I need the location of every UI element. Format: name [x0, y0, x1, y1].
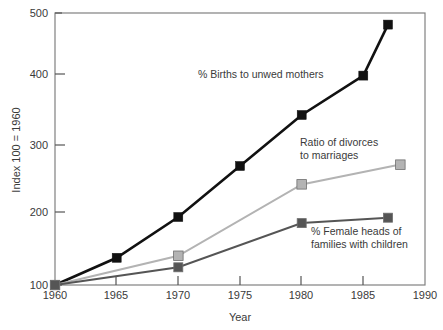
y-tick-label-300: 300	[30, 139, 48, 151]
data-point-marker	[174, 213, 183, 222]
chart-canvas: 500 400 300 200 100 Index 100 = 1960 196…	[0, 0, 443, 330]
x-tick-label-1990: 1990	[413, 289, 437, 301]
data-point-marker	[236, 162, 245, 171]
data-point-marker	[174, 263, 183, 272]
annotation-line: to marriages	[300, 149, 358, 161]
y-tick-label-500: 500	[30, 7, 48, 19]
x-tick-label-1985: 1985	[351, 289, 375, 301]
data-point-marker	[384, 20, 393, 29]
data-point-marker	[297, 180, 307, 190]
x-tick-label-1975: 1975	[228, 289, 252, 301]
data-point-marker	[297, 219, 306, 228]
x-tick-label-1980: 1980	[289, 289, 313, 301]
x-tick-label-1970: 1970	[166, 289, 190, 301]
data-point-marker	[396, 160, 406, 170]
data-point-marker	[112, 253, 121, 262]
y-tick-label-400: 400	[30, 68, 48, 80]
data-point-marker	[174, 251, 184, 261]
data-point-marker	[297, 111, 306, 120]
x-tick-label-1960: 1960	[43, 289, 67, 301]
annotation-line: families with children	[311, 238, 408, 250]
y-tick-label-200: 200	[30, 206, 48, 218]
annotation-line: % Births to unwed mothers	[198, 68, 323, 80]
data-point-marker	[51, 281, 60, 290]
x-axis-title: Year	[229, 311, 252, 323]
x-tick-label-1965: 1965	[104, 289, 128, 301]
annotation-female-heads: % Female heads offamilies with children	[311, 225, 408, 250]
annotation-unwed-mothers: % Births to unwed mothers	[198, 68, 323, 80]
line-chart: 500 400 300 200 100 Index 100 = 1960 196…	[0, 0, 443, 330]
data-point-marker	[384, 213, 393, 222]
annotation-line: % Female heads of	[311, 225, 402, 237]
annotation-line: Ratio of divorces	[300, 136, 378, 148]
y-axis-title: Index 100 = 1960	[10, 107, 22, 192]
data-point-marker	[359, 71, 368, 80]
